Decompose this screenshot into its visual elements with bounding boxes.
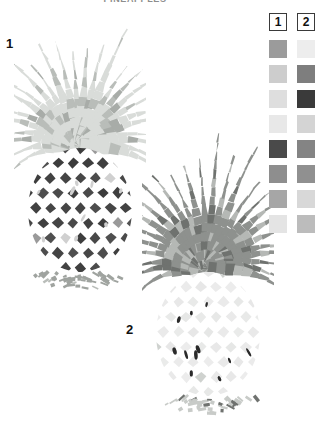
legend-swatch-1-8 [269, 215, 287, 233]
legend-swatch-2-5 [297, 140, 315, 158]
legend-column-header-1: 1 [269, 13, 287, 31]
legend-swatch-1-5 [269, 140, 287, 158]
legend-swatch-1-7 [269, 190, 287, 208]
pineapple-2-base [165, 394, 260, 415]
legend-header-row: 1 2 [269, 13, 325, 31]
legend-row [269, 165, 325, 183]
legend-swatch-2-7 [297, 190, 315, 208]
legend-swatch-2-4 [297, 115, 315, 133]
figure-label-2: 2 [126, 322, 133, 337]
pineapple-1-base [33, 270, 123, 290]
page-title: PINEAPPLES [0, 0, 270, 2]
figure-label-1: 1 [6, 36, 13, 51]
legend-row [269, 90, 325, 108]
legend-swatch-1-3 [269, 90, 287, 108]
legend-row [269, 65, 325, 83]
legend-row [269, 140, 325, 158]
legend-swatch-2-8 [297, 215, 315, 233]
legend-swatch-rows [269, 40, 325, 233]
pineapple-illustration-1 [14, 14, 146, 292]
legend-swatch-2-3 [297, 90, 315, 108]
legend-row [269, 40, 325, 58]
legend-column-header-2: 2 [297, 13, 315, 31]
legend-swatch-2-2 [297, 65, 315, 83]
legend-swatch-2-6 [297, 165, 315, 183]
legend-swatch-1-2 [269, 65, 287, 83]
color-key-legend: 1 2 [269, 13, 325, 240]
legend-row [269, 190, 325, 208]
legend-swatch-1-4 [269, 115, 287, 133]
pineapple-illustration-2 [142, 128, 274, 416]
legend-swatch-2-1 [297, 40, 315, 58]
legend-swatch-1-1 [269, 40, 287, 58]
legend-row [269, 115, 325, 133]
legend-row [269, 215, 325, 233]
legend-swatch-1-6 [269, 165, 287, 183]
